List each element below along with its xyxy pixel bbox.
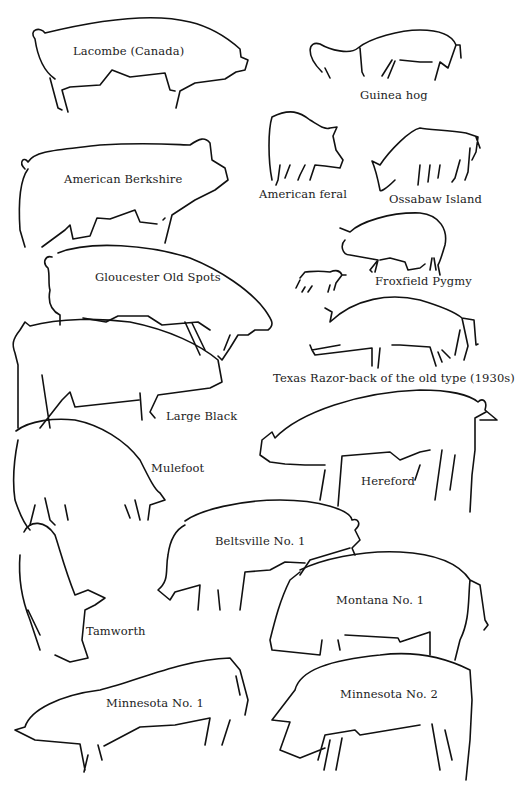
beltsville-no-1-silhouette — [158, 500, 360, 610]
hereford-silhouette — [260, 390, 497, 512]
ossabaw-island-silhouette — [372, 128, 480, 191]
label-hereford: Hereford — [361, 474, 415, 488]
label-guinea-hog: Guinea hog — [360, 88, 428, 102]
froxfield-pygmy-silhouette — [340, 213, 446, 275]
mulefoot-silhouette — [14, 419, 165, 530]
label-gloucester-old-spots: Gloucester Old Spots — [95, 270, 221, 284]
label-minnesota-no-1: Minnesota No. 1 — [106, 696, 204, 710]
froxfield-pygmy-small-silhouette — [296, 271, 346, 292]
label-american-berkshire: American Berkshire — [64, 172, 182, 186]
gloucester-old-spots-silhouette — [45, 245, 272, 360]
label-lacombe: Lacombe (Canada) — [73, 44, 184, 58]
label-ossabaw-island: Ossabaw Island — [389, 192, 482, 206]
guinea-hog-silhouette — [310, 30, 461, 80]
american-berkshire-silhouette — [19, 139, 228, 247]
american-feral-silhouette — [269, 112, 343, 185]
label-beltsville-no-1: Beltsville No. 1 — [215, 534, 305, 548]
label-tamworth: Tamworth — [86, 624, 146, 638]
label-mulefoot: Mulefoot — [151, 461, 204, 475]
label-minnesota-no-2: Minnesota No. 2 — [340, 687, 438, 701]
lacombe-silhouette — [33, 18, 248, 112]
tamworth-silhouette — [19, 523, 105, 662]
label-froxfield-pygmy: Froxfield Pygmy — [375, 274, 472, 288]
label-montana-no-1: Montana No. 1 — [336, 593, 424, 607]
label-american-feral: American feral — [259, 187, 347, 201]
minnesota-no-1-silhouette — [15, 658, 248, 772]
texas-razor-back-silhouette — [310, 297, 478, 368]
label-large-black: Large Black — [166, 409, 237, 423]
label-texas-razor-back: Texas Razor-back of the old type (1930s) — [273, 371, 515, 385]
minnesota-no-2-silhouette — [272, 654, 472, 780]
